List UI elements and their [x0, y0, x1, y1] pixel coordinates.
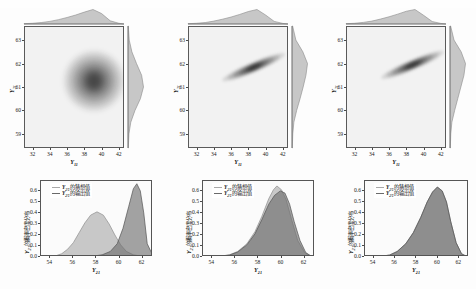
joint-axes-3: [346, 26, 446, 148]
legend-swatch-output: [376, 193, 384, 194]
legend-swatch-guess: [52, 187, 60, 188]
density-ylabel-3: Y21的概率密度分布: [347, 211, 356, 254]
x-tick-label: 40: [421, 151, 427, 157]
y-tick: [38, 256, 40, 257]
y-tick-label: 59: [10, 131, 21, 137]
x-tick-label: 36: [228, 151, 234, 157]
x-tick-label: 58: [255, 259, 261, 265]
y-tick: [22, 64, 24, 65]
x-tick-label: 54: [208, 259, 214, 265]
marginal-right-2: [292, 26, 309, 148]
x-tick-label: 42: [438, 151, 444, 157]
x-tick-label: 42: [116, 151, 122, 157]
x-tick-label: 62: [301, 259, 307, 265]
y-tick: [38, 190, 40, 191]
joint-xlabel-1: Y11: [70, 158, 78, 167]
y-tick: [22, 87, 24, 88]
y-tick: [344, 110, 346, 111]
y-tick: [22, 134, 24, 135]
y-tick-label: 59: [332, 131, 343, 137]
x-tick-label: 34: [47, 151, 53, 157]
legend-label-output: Y21的输出值: [224, 189, 252, 198]
figure-canvas: 3234363840425960616263Y11Y21 32343638404…: [0, 0, 476, 289]
y-tick: [362, 190, 364, 191]
y-tick-label: 63: [332, 37, 343, 43]
x-tick-label: 58: [413, 259, 419, 265]
y-tick: [186, 64, 188, 65]
y-tick: [186, 40, 188, 41]
y-tick: [362, 234, 364, 235]
legend-label-output: Y21的输出值: [62, 189, 90, 198]
joint-ylabel-1: Y21: [8, 85, 17, 93]
x-tick-label: 38: [246, 151, 252, 157]
x-tick-label: 54: [46, 259, 52, 265]
marginal-right-3: [450, 26, 467, 148]
x-tick-label: 56: [232, 259, 238, 265]
x-tick-label: 32: [194, 151, 200, 157]
density-legend-3: Y21的猜想值Y21的输出值: [374, 183, 416, 198]
y-tick-label: 0.6: [187, 187, 199, 193]
x-tick-label: 38: [82, 151, 88, 157]
y-tick-label: 63: [10, 37, 21, 43]
joint-ylabel-3: Y21: [330, 85, 339, 93]
y-tick: [362, 256, 364, 257]
x-tick-label: 60: [434, 259, 440, 265]
density-ylabel-2: Y21的概率密度分布: [185, 211, 194, 254]
legend-swatch-output: [214, 193, 222, 194]
y-tick-label: 0.5: [349, 198, 361, 204]
marginal-top-3: [346, 8, 446, 24]
legend-item-output: Y21的输出值: [52, 190, 90, 196]
y-tick: [38, 245, 40, 246]
density-xlabel-3: Y21: [412, 266, 420, 275]
y-tick-label: 0.5: [25, 198, 37, 204]
y-tick: [22, 110, 24, 111]
x-tick-label: 60: [116, 259, 122, 265]
y-tick: [344, 134, 346, 135]
y-tick-label: 60: [332, 107, 343, 113]
joint-xlabel-3: Y11: [392, 158, 400, 167]
y-tick-label: 0.6: [349, 187, 361, 193]
y-tick: [200, 256, 202, 257]
y-tick: [186, 110, 188, 111]
x-tick-label: 60: [278, 259, 284, 265]
y-tick: [38, 212, 40, 213]
y-tick-label: 0.6: [25, 187, 37, 193]
legend-swatch-guess: [214, 187, 222, 188]
y-tick-label: 0.5: [187, 198, 199, 204]
y-tick-label: 59: [174, 131, 185, 137]
y-tick: [38, 223, 40, 224]
marginal-right-1: [128, 26, 145, 148]
y-tick-label: 62: [174, 61, 185, 67]
x-tick-label: 38: [404, 151, 410, 157]
y-tick: [38, 234, 40, 235]
y-tick-label: 60: [174, 107, 185, 113]
y-tick: [200, 212, 202, 213]
y-tick: [362, 201, 364, 202]
x-tick-label: 32: [352, 151, 358, 157]
y-tick-label: 62: [10, 61, 21, 67]
legend-item-output: Y21的输出值: [214, 190, 252, 196]
y-tick: [362, 223, 364, 224]
y-tick: [362, 245, 364, 246]
density-ylabel-1: Y21的概率密度分布: [23, 211, 32, 254]
x-tick-label: 36: [386, 151, 392, 157]
legend-swatch-guess: [376, 187, 384, 188]
y-tick: [344, 40, 346, 41]
y-tick-label: 62: [332, 61, 343, 67]
x-tick-label: 40: [263, 151, 269, 157]
x-tick-label: 34: [369, 151, 375, 157]
x-tick-label: 56: [70, 259, 76, 265]
marginal-top-2: [188, 8, 288, 24]
y-tick-label: 60: [10, 107, 21, 113]
density-legend-2: Y21的猜想值Y21的输出值: [212, 183, 254, 198]
y-tick: [200, 190, 202, 191]
y-tick: [200, 234, 202, 235]
marginal-top-1: [24, 8, 124, 24]
legend-item-output: Y21的输出值: [376, 190, 414, 196]
joint-ylabel-2: Y21: [172, 85, 181, 93]
y-tick: [186, 134, 188, 135]
x-tick-label: 40: [99, 151, 105, 157]
y-tick: [362, 212, 364, 213]
y-tick: [200, 223, 202, 224]
legend-label-output: Y21的输出值: [386, 189, 414, 198]
